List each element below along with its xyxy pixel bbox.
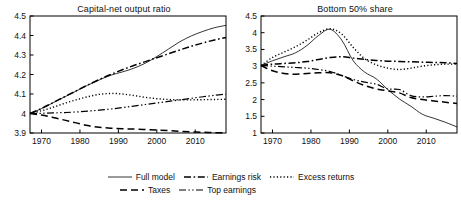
legend-label: Top earnings — [207, 185, 256, 195]
x-tick-label-right: 1970 — [263, 136, 282, 146]
x-tick-label-right: 2000 — [378, 136, 397, 146]
legend-item-taxes: Taxes — [119, 185, 170, 195]
legend-swatch-dashed-icon — [119, 185, 145, 195]
legend-item-excess-returns: Excess returns — [269, 172, 354, 182]
legend-swatch-solid-icon — [107, 172, 133, 182]
x-tick-label-right: 1980 — [301, 136, 320, 146]
y-tick-label-right: 3 — [252, 61, 257, 71]
x-tick-label-left: 2010 — [186, 136, 205, 146]
legend-label: Earnings risk — [212, 172, 261, 182]
y-tick-label-left: 3.9 — [14, 128, 26, 138]
legend-swatch-dashdot-icon — [183, 172, 209, 182]
chart-legend: Full modelEarnings riskExcess returnsTax… — [0, 170, 461, 215]
legend-label: Full model — [136, 172, 175, 182]
series-line-top-earnings — [261, 65, 457, 96]
legend-item-top-earnings: Top earnings — [178, 185, 256, 195]
series-line-earnings-risk — [30, 37, 226, 113]
series-line-earnings-risk — [261, 57, 457, 66]
chart-title-right: Bottom 50% share — [231, 4, 461, 14]
legend-label: Excess returns — [298, 172, 354, 182]
y-tick-label-left: 4.3 — [14, 50, 26, 60]
x-tick-label-left: 2000 — [147, 136, 166, 146]
figure-two-panel-line-charts: Capital-net output ratio 3.944.14.24.34.… — [0, 0, 461, 215]
y-tick-label-left: 4 — [21, 109, 26, 119]
legend-swatch-dashdotdot-icon — [178, 185, 204, 195]
chart-panel-bottom-50-share: Bottom 50% share 11.522.533.544.51970198… — [231, 0, 461, 160]
chart-title-left: Capital-net output ratio — [0, 4, 230, 14]
x-tick-label-right: 1990 — [340, 136, 359, 146]
legend-swatch-dotted-icon — [269, 172, 295, 182]
legend-item-full-model: Full model — [107, 172, 175, 182]
y-tick-label-right: 3.5 — [245, 44, 257, 54]
series-line-full-model — [30, 25, 226, 113]
y-tick-label-right: 2 — [252, 95, 257, 105]
series-line-taxes — [261, 65, 457, 103]
y-tick-label-left: 4.2 — [14, 70, 26, 80]
x-tick-label-left: 1990 — [109, 136, 128, 146]
legend-row: TaxesTop earnings — [0, 183, 461, 196]
x-tick-label-left: 1970 — [32, 136, 51, 146]
chart-panel-capital-net-output-ratio: Capital-net output ratio 3.944.14.24.34.… — [0, 0, 230, 160]
y-tick-label-right: 1 — [252, 128, 257, 138]
legend-row: Full modelEarnings riskExcess returns — [0, 170, 461, 183]
legend-item-earnings-risk: Earnings risk — [183, 172, 261, 182]
x-tick-label-left: 1980 — [70, 136, 89, 146]
legend-label: Taxes — [148, 185, 170, 195]
series-line-top-earnings — [30, 94, 226, 114]
chart-svg-right: 11.522.533.544.519701980199020002010 — [231, 0, 461, 160]
chart-svg-left: 3.944.14.24.34.44.519701980199020002010 — [0, 0, 230, 160]
series-line-full-model — [261, 29, 457, 127]
y-tick-label-right: 2.5 — [245, 78, 257, 88]
series-line-taxes — [30, 114, 226, 133]
y-tick-label-right: 1.5 — [245, 111, 257, 121]
series-line-excess-returns — [30, 93, 226, 113]
y-tick-label-left: 4.1 — [14, 89, 26, 99]
x-tick-label-right: 2010 — [417, 136, 436, 146]
y-tick-label-right: 4 — [252, 28, 257, 38]
y-tick-label-left: 4.4 — [14, 31, 26, 41]
